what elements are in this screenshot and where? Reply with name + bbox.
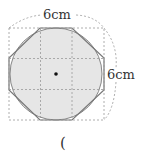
- center-dot: [54, 72, 58, 76]
- right-dimension-arc-bottom: [104, 82, 116, 120]
- top-dimension-arc-right: [76, 15, 104, 28]
- answer-parenthesis: (: [60, 136, 66, 150]
- top-dimension-arc: [9, 15, 42, 28]
- right-dimension-arc: [104, 28, 116, 68]
- top-dimension-label: 6cm: [43, 8, 71, 22]
- right-dimension-label: 6cm: [107, 68, 135, 82]
